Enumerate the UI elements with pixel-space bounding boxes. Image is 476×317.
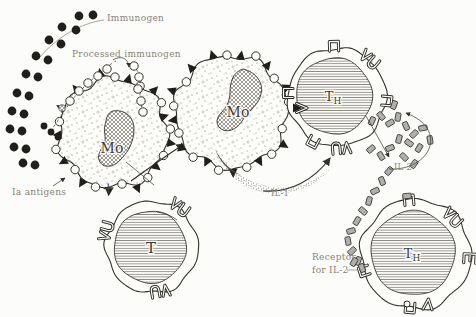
il2-molecule-icon: [409, 129, 419, 139]
processed-immunogen-icon: [84, 79, 92, 87]
t-helper-1-label-main: T: [325, 89, 334, 104]
ia-antigen-icon: [167, 115, 177, 125]
processed-immunogen-icon: [223, 51, 231, 59]
il1-label: IL-1: [271, 188, 289, 198]
il2-molecule-icon: [370, 187, 380, 195]
receptor-dot-icon: [404, 301, 410, 307]
t-cell-label: T: [146, 239, 156, 257]
il2-molecule-icon: [404, 138, 414, 147]
processed-immunogen-icon: [111, 73, 119, 81]
il2-molecule-icon: [385, 119, 395, 128]
t-helper-2-label-sub: H: [412, 253, 420, 263]
il2-molecule-icon: [385, 144, 395, 152]
processed-immunogen-icon: [52, 145, 60, 153]
immunogen-dot-icon: [31, 161, 40, 170]
immunogen-dot-icon: [22, 145, 31, 154]
processed-exit-arrow: [113, 58, 129, 67]
immunogen-dot-icon: [34, 73, 43, 82]
macrophage-2-label: Mo: [227, 104, 250, 120]
processed-immunogen-icon: [157, 99, 165, 107]
t-helper-2-label-main: T: [404, 246, 413, 261]
immunogen-dot-icon: [10, 143, 19, 152]
il2-molecule-icon: [345, 236, 352, 245]
processed-immunogen-icon: [270, 74, 278, 82]
il2-molecule-icon: [427, 135, 434, 144]
processed-immunogen-icon: [139, 108, 147, 116]
processed-immunogen-icon: [189, 153, 197, 161]
immunogen-dot-icon: [6, 125, 15, 134]
processed-immunogen-icon: [278, 124, 286, 132]
processed-immunogen-icon: [71, 165, 79, 173]
il2-molecule-icon: [418, 125, 427, 132]
processed-immunogen-icon: [130, 62, 138, 70]
immunogen-dot-icon: [72, 26, 81, 35]
receptor-for-il2-label-line1: Receptor: [312, 252, 356, 262]
processed-immunogen-icon: [137, 97, 145, 105]
immunogen-dot-icon: [44, 56, 53, 65]
processed-immunogen-icon: [55, 117, 63, 125]
immunogen-dot-icon: [57, 40, 66, 49]
il2-molecule-icon: [384, 166, 393, 176]
immunogen-dot-icon: [75, 12, 84, 21]
il2-molecule-icon: [402, 121, 410, 131]
processed-immunogen-label: Processed immunogen: [72, 49, 181, 59]
il2-molecule-icon: [353, 216, 362, 226]
il2-molecule-icon: [365, 196, 372, 205]
immunogen-dot-icon: [89, 11, 98, 20]
il2-molecule-icon: [395, 134, 402, 143]
receptor-for-il2-label-line2: for IL-2: [312, 265, 349, 275]
immunogen-dot-icon: [55, 134, 62, 141]
immunogen-dot-icon: [41, 123, 48, 130]
processed-immunogen-icon: [135, 73, 143, 81]
processed-immunogen-icon: [214, 166, 222, 174]
processed-immunogen-icon: [268, 150, 276, 158]
il2-molecule-icon: [378, 176, 386, 186]
ia-antigen-icon: [167, 138, 177, 148]
plus-sign: +: [102, 179, 115, 197]
immunogen-dot-icon: [45, 36, 54, 45]
processed-immunogen-icon: [134, 85, 142, 93]
processed-immunogen-icon: [166, 125, 174, 133]
il2-molecule-icon: [399, 152, 409, 162]
macrophage-1: [41, 58, 177, 197]
processed-immunogen-icon: [182, 78, 190, 86]
processed-immunogen-icon: [175, 129, 183, 137]
immunogen-dot-icon: [8, 107, 17, 116]
processed-immunogen-icon: [91, 183, 99, 191]
processed-immunogen-icon: [66, 97, 74, 105]
t-helper-1-label-sub: H: [333, 96, 341, 106]
il2-molecule-icon: [377, 151, 386, 161]
immunogen-dot-icon: [18, 127, 27, 136]
immunogen-dot-icon: [32, 52, 41, 61]
diagram-figure: Immunogen Processed immunogen Mo Ia anti…: [0, 0, 476, 317]
ingested-particle-icon: [59, 105, 66, 112]
immunogen-dot-icon: [19, 159, 28, 168]
macrophage-1-label: Mo: [101, 140, 124, 156]
immunogen-dot-icon: [20, 110, 29, 119]
ia-antigens-arrow: [53, 178, 65, 186]
il2-label: IL-2: [394, 162, 412, 172]
processed-immunogen-icon: [75, 87, 83, 95]
il2-molecule-icon: [358, 206, 368, 215]
processed-immunogen-icon: [243, 163, 251, 171]
immunology-diagram: Immunogen Processed immunogen Mo Ia anti…: [0, 0, 476, 317]
processed-immunogen-icon: [94, 72, 102, 80]
immunogen-dot-icon: [48, 129, 55, 136]
processed-immunogen-icon: [170, 102, 178, 110]
processed-immunogen-icon: [252, 52, 260, 60]
ia-antigens-label: Ia antigens: [12, 187, 66, 197]
immunogen-dot-icon: [58, 23, 67, 32]
il2-molecule-icon: [346, 227, 355, 234]
il2-molecule-icon: [415, 143, 424, 153]
il2-molecule-icon: [366, 144, 376, 153]
il2-molecule-icon: [395, 112, 402, 121]
immunogen-label: Immunogen: [107, 13, 164, 23]
processed-immunogen-icon: [118, 180, 126, 188]
il2-molecule-icon: [403, 193, 412, 199]
immunogen-dot-icon: [13, 89, 22, 98]
immunogen-dot-icon: [25, 92, 34, 101]
immunogen-dot-icon: [22, 70, 31, 79]
processed-immunogen-icon: [103, 65, 111, 73]
